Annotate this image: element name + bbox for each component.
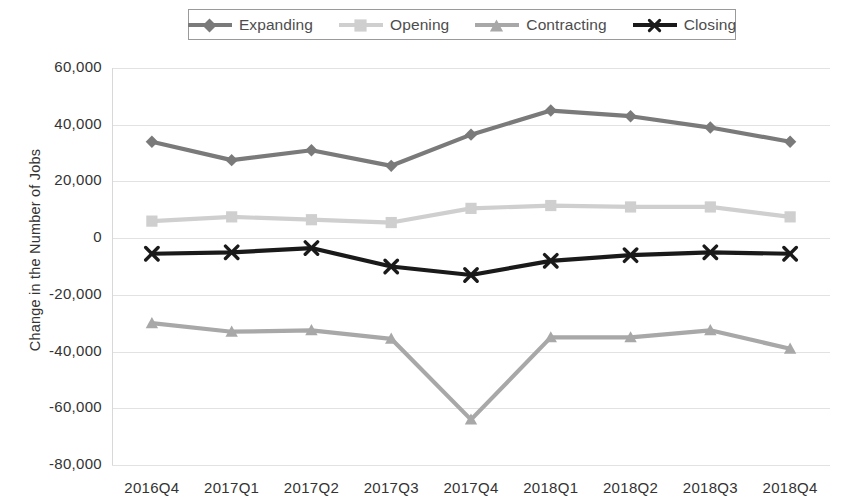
square-marker-icon (353, 18, 368, 33)
data-point-marker (146, 216, 157, 227)
series-opening (146, 200, 795, 228)
legend-marker-square-icon (339, 17, 383, 33)
chart-legend: Expanding Opening Contracting (188, 9, 736, 40)
legend-marker-x-icon (633, 17, 677, 33)
data-point-marker (545, 104, 557, 116)
data-point-marker (465, 203, 476, 214)
y-axis-tick-label: -80,000 (10, 455, 102, 472)
data-point-marker (465, 128, 477, 140)
y-axis-tick-label: 0 (10, 228, 102, 245)
legend-label-opening: Opening (390, 16, 449, 34)
y-axis-tick-labels: 60,00040,00020,0000-20,000-40,000-60,000… (10, 0, 102, 503)
series-contracting (146, 317, 797, 425)
series-line (152, 323, 790, 419)
data-point-marker (784, 136, 796, 148)
x-axis-tick-label: 2018Q4 (763, 479, 818, 496)
data-point-marker (705, 201, 716, 212)
plot-area (112, 68, 830, 465)
triangle-marker-icon (489, 18, 504, 33)
x-axis-tick-label: 2017Q2 (284, 479, 339, 496)
x-marker-icon (647, 18, 662, 33)
y-axis-tick-label: -60,000 (10, 398, 102, 415)
legend-label-contracting: Contracting (526, 16, 606, 34)
y-axis-tick-label: 40,000 (10, 115, 102, 132)
data-point-marker (624, 110, 636, 122)
data-point-marker (785, 211, 796, 222)
legend-label-expanding: Expanding (239, 16, 313, 34)
data-point-marker (545, 200, 556, 211)
series-line (152, 248, 790, 275)
diamond-marker-icon (202, 18, 217, 33)
legend-marker-diamond-icon (188, 17, 232, 33)
data-point-marker (305, 144, 317, 156)
data-point-marker (146, 136, 158, 148)
x-axis-tick-label: 2017Q4 (443, 479, 498, 496)
data-point-marker (385, 160, 397, 172)
y-axis-tick-label: 20,000 (10, 171, 102, 188)
gridline (112, 465, 830, 466)
data-point-marker (225, 154, 237, 166)
legend-label-closing: Closing (684, 16, 736, 34)
y-axis-tick-label: -40,000 (10, 342, 102, 359)
legend-marker-triangle-icon (475, 17, 519, 33)
data-point-marker (386, 217, 397, 228)
data-point-marker (625, 201, 636, 212)
series-plot (112, 68, 830, 465)
legend-entry-opening: Opening (339, 16, 449, 34)
x-axis-tick-label: 2018Q2 (603, 479, 658, 496)
x-axis-tick-label: 2016Q4 (124, 479, 179, 496)
line-chart: Expanding Opening Contracting (0, 0, 842, 503)
x-axis-tick-label: 2017Q1 (204, 479, 259, 496)
data-point-marker (704, 121, 716, 133)
x-axis-tick-label: 2017Q3 (364, 479, 419, 496)
data-point-marker (306, 214, 317, 225)
x-axis-tick-label: 2018Q1 (523, 479, 578, 496)
x-axis-tick-label: 2018Q3 (683, 479, 738, 496)
series-closing (146, 242, 797, 281)
legend-entry-contracting: Contracting (475, 16, 606, 34)
series-expanding (146, 104, 797, 172)
data-point-marker (226, 211, 237, 222)
legend-entry-expanding: Expanding (188, 16, 313, 34)
y-axis-tick-label: 60,000 (10, 58, 102, 75)
legend-entry-closing: Closing (633, 16, 736, 34)
y-axis-tick-label: -20,000 (10, 285, 102, 302)
